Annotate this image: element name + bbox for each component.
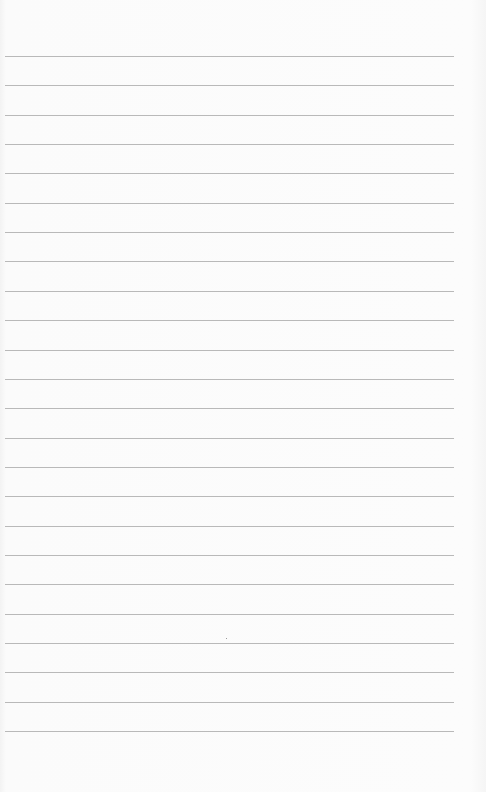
ruled-line xyxy=(5,731,454,732)
ruled-line xyxy=(5,320,454,321)
ruled-line xyxy=(5,555,454,556)
lined-paper-sheet xyxy=(0,0,486,792)
ruled-line xyxy=(5,438,454,439)
ruled-line xyxy=(5,526,454,527)
ruled-line xyxy=(5,203,454,204)
ruled-line xyxy=(5,672,454,673)
ruled-line xyxy=(5,584,454,585)
ruled-line xyxy=(5,56,454,57)
ruled-line xyxy=(5,614,454,615)
ruled-line xyxy=(5,173,454,174)
ruled-line xyxy=(5,408,454,409)
paper-speck xyxy=(226,638,227,639)
ruled-line xyxy=(5,144,454,145)
ruled-line xyxy=(5,115,454,116)
ruled-line xyxy=(5,261,454,262)
ruled-line xyxy=(5,291,454,292)
ruled-line xyxy=(5,379,454,380)
ruled-line xyxy=(5,350,454,351)
ruled-line xyxy=(5,496,454,497)
ruled-line xyxy=(5,85,454,86)
ruled-line xyxy=(5,232,454,233)
ruled-line xyxy=(5,702,454,703)
ruled-line xyxy=(5,643,454,644)
ruled-line xyxy=(5,467,454,468)
